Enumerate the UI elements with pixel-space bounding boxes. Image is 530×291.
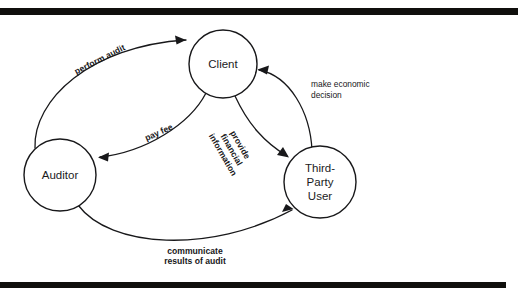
edge-label-make-economic-decision: make economic decision [311,79,370,100]
node-auditor-label: Auditor [42,169,79,181]
node-third-party-user-label-line-3: User [308,190,332,202]
edge-label-communicate-results-of-audit-line-1: communicate [167,246,223,256]
node-third-party-user[interactable]: Third- Party User [284,146,356,218]
edge-provide-financial-information-arrowhead [277,147,289,158]
edge-perform-audit-arrowhead [175,36,186,45]
edge-pay-fee-arc [100,93,206,157]
edge-label-make-economic-decision-line-2: decision [311,90,342,100]
edge-label-communicate-results-of-audit-line-2: results of audit [164,256,226,266]
edge-make-economic-decision-arc [259,70,312,150]
edge-communicate-results-of-audit-arc [78,205,292,240]
edge-label-provide-financial-information: provide financial information [207,122,257,178]
node-client-label: Client [208,58,238,70]
edge-label-pay-fee: pay fee [143,122,174,143]
node-client[interactable]: Client [189,30,257,98]
edge-pay-fee-arrowhead [98,153,109,162]
edge-label-perform-audit: perform audit [73,42,127,76]
edge-label-pay-fee-line-1: pay fee [143,122,174,143]
diagram-page: Client Auditor Third- Party User perform… [0,0,530,291]
edge-make-economic-decision-arrowhead [258,66,270,75]
node-auditor[interactable]: Auditor [24,139,96,211]
edge-pay-fee [98,93,206,162]
node-third-party-user-label-line-1: Third- [305,162,335,174]
edge-label-communicate-results-of-audit: communicate results of audit [164,246,226,266]
edge-make-economic-decision [258,66,313,151]
edge-label-perform-audit-line-1: perform audit [73,42,127,76]
audit-relationship-diagram: Client Auditor Third- Party User perform… [0,0,530,291]
node-third-party-user-label-line-2: Party [307,176,334,188]
edge-label-make-economic-decision-line-1: make economic [311,79,370,89]
edge-communicate-results-of-audit [78,204,294,240]
